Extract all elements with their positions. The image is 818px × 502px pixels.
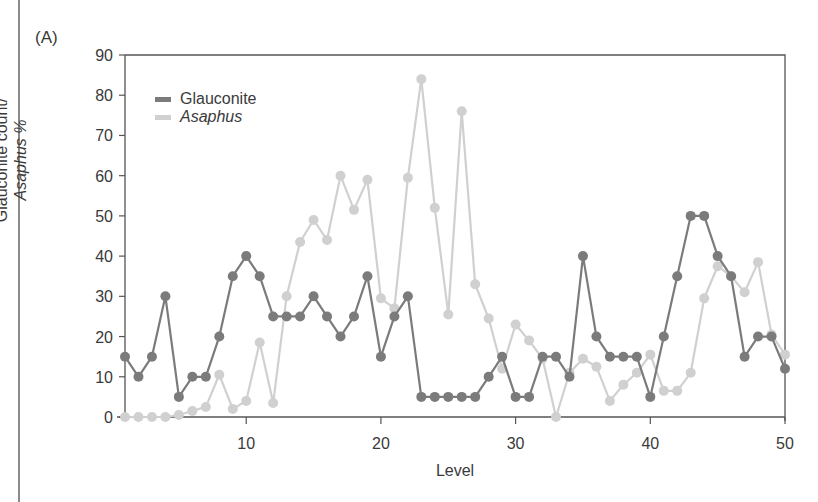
- data-point: [214, 370, 224, 380]
- legend-label-glauconite: Glauconite: [180, 90, 257, 108]
- data-point: [187, 372, 197, 382]
- data-point: [255, 338, 265, 348]
- data-point: [564, 372, 574, 382]
- data-point: [376, 352, 386, 362]
- data-point: [214, 332, 224, 342]
- data-point: [255, 271, 265, 281]
- data-point: [309, 291, 319, 301]
- data-point: [336, 171, 346, 181]
- data-point: [457, 106, 467, 116]
- data-point: [740, 352, 750, 362]
- data-point: [147, 412, 157, 422]
- data-point: [591, 332, 601, 342]
- series-line-glauconite: [125, 216, 785, 397]
- data-point: [268, 398, 278, 408]
- data-point: [511, 392, 521, 402]
- data-point: [241, 396, 251, 406]
- data-point: [484, 372, 494, 382]
- legend-item-asaphus: Asaphus: [155, 108, 257, 126]
- data-point: [672, 386, 682, 396]
- data-point: [309, 215, 319, 225]
- y-tick-label: 30: [95, 288, 113, 305]
- data-point: [430, 203, 440, 213]
- data-point: [147, 352, 157, 362]
- legend: Glauconite Asaphus: [155, 90, 257, 126]
- x-tick-label: 10: [237, 435, 255, 452]
- data-point: [538, 352, 548, 362]
- data-point: [726, 271, 736, 281]
- data-point: [228, 271, 238, 281]
- data-point: [228, 404, 238, 414]
- data-point: [632, 352, 642, 362]
- y-tick-label: 70: [95, 127, 113, 144]
- data-point: [187, 406, 197, 416]
- data-point: [470, 392, 480, 402]
- y-tick-label: 50: [95, 208, 113, 225]
- data-point: [133, 412, 143, 422]
- data-point: [753, 257, 763, 267]
- data-point: [591, 362, 601, 372]
- data-point: [484, 313, 494, 323]
- data-point: [753, 332, 763, 342]
- data-point: [659, 332, 669, 342]
- series-line-asaphus: [125, 79, 785, 417]
- data-point: [618, 380, 628, 390]
- data-point: [645, 392, 655, 402]
- data-point: [362, 175, 372, 185]
- data-point: [416, 392, 426, 402]
- y-tick-label: 40: [95, 248, 113, 265]
- y-tick-label: 20: [95, 329, 113, 346]
- data-point: [241, 251, 251, 261]
- data-point: [659, 386, 669, 396]
- x-tick-label: 20: [372, 435, 390, 452]
- data-point: [201, 372, 211, 382]
- data-point: [511, 319, 521, 329]
- data-point: [443, 392, 453, 402]
- data-point: [605, 396, 615, 406]
- data-point: [174, 392, 184, 402]
- data-point: [336, 332, 346, 342]
- data-point: [578, 354, 588, 364]
- data-point: [389, 311, 399, 321]
- data-point: [295, 311, 305, 321]
- data-point: [524, 392, 534, 402]
- data-point: [160, 412, 170, 422]
- y-tick-label: 60: [95, 168, 113, 185]
- data-point: [686, 368, 696, 378]
- data-point: [120, 412, 130, 422]
- line-chart: 01020304050607080901020304050: [0, 0, 818, 502]
- data-point: [174, 410, 184, 420]
- data-point: [605, 352, 615, 362]
- data-point: [349, 311, 359, 321]
- series-group: [120, 74, 790, 422]
- data-point: [403, 291, 413, 301]
- data-point: [645, 350, 655, 360]
- data-point: [551, 352, 561, 362]
- data-point: [672, 271, 682, 281]
- y-tick-label: 80: [95, 87, 113, 104]
- data-point: [322, 235, 332, 245]
- data-point: [457, 392, 467, 402]
- data-point: [376, 293, 386, 303]
- x-tick-label: 40: [641, 435, 659, 452]
- data-point: [322, 311, 332, 321]
- data-point: [686, 211, 696, 221]
- data-point: [443, 309, 453, 319]
- data-point: [497, 352, 507, 362]
- data-point: [349, 205, 359, 215]
- data-point: [201, 402, 211, 412]
- y-tick-label: 90: [95, 47, 113, 64]
- data-point: [133, 372, 143, 382]
- legend-label-asaphus: Asaphus: [180, 108, 242, 126]
- data-point: [780, 364, 790, 374]
- x-axis-label: Level: [400, 462, 510, 480]
- series-asaphus: [120, 74, 790, 422]
- y-tick-label: 0: [104, 409, 113, 426]
- data-point: [699, 293, 709, 303]
- x-tick-label: 30: [507, 435, 525, 452]
- data-point: [362, 271, 372, 281]
- data-point: [618, 352, 628, 362]
- data-point: [767, 332, 777, 342]
- data-point: [430, 392, 440, 402]
- data-point: [578, 251, 588, 261]
